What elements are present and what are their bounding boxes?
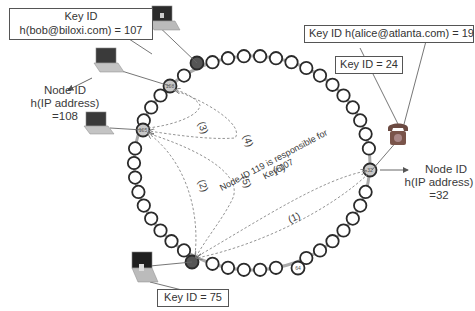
bob-key-value: h(bob@biloxi.com) = 107 [14,24,148,38]
laptop-icon-bottom [132,252,158,282]
ring-node [314,69,326,81]
ring-node [359,128,371,140]
ring-node [138,199,150,211]
ring-node [254,264,266,276]
ring-node [347,212,359,224]
node32-line3: =32 [400,189,475,202]
node108-line3: =108 [20,110,110,123]
laptop-icon-node108 [94,48,124,72]
ring-node [337,89,349,101]
ring-node [314,244,326,256]
node32-line1: Node ID [414,163,475,176]
alice-key-label: Key ID h(alice@atlanta.com) = 19 [309,27,474,39]
bob-key-box: Key ID h(bob@biloxi.com) = 107 [9,8,153,40]
ring-node [206,258,218,270]
ring-node [354,114,366,126]
node108-line1: Node ID [20,84,110,97]
ring-node [145,212,157,224]
key24-label: Key ID = 24 [340,58,398,70]
ring-node [300,62,312,74]
telephone-icon [388,124,408,146]
ring-node [178,69,190,81]
ring-node [128,157,140,169]
alice-key-box: Key ID h(alice@atlanta.com) = 19 [304,25,474,43]
ring-node-label: 108 [166,83,175,89]
ring-node [165,235,177,247]
ring-node [129,142,141,154]
ring-node [354,199,366,211]
ring-node-label: 64 [295,265,301,271]
ring-node [270,262,282,274]
ring-node [238,50,250,62]
ring-node [222,262,234,274]
ring-node [206,56,218,68]
ring-node [347,101,359,113]
dht-ring-diagram: 1081053264 [0,0,475,311]
ring-node [238,264,250,276]
node32-label: Node ID h(IP address) =32 [400,163,475,203]
ring-node [154,224,166,236]
key75-label: Key ID = 75 [164,291,222,303]
ring-node [129,171,141,183]
laptop-icon-top [149,6,180,30]
key24-box: Key ID = 24 [335,56,403,74]
node108-line2: h(IP address) [20,97,110,110]
ring-node [270,52,282,64]
ring-node [145,101,157,113]
ring-node [222,52,234,64]
ring-node [363,142,375,154]
ring-node [359,186,371,198]
ring-node [254,50,266,62]
bob-key-title: Key ID [14,10,148,24]
ring-node [326,79,338,91]
ring-node [285,56,297,68]
ring-node [337,224,349,236]
node108-label: Node ID h(IP address) =108 [20,84,110,124]
ring-node [326,235,338,247]
key75-box: Key ID = 75 [157,289,229,307]
ring-node [178,244,190,256]
ring-node [132,186,144,198]
node32-line2: h(IP address) [400,176,475,189]
